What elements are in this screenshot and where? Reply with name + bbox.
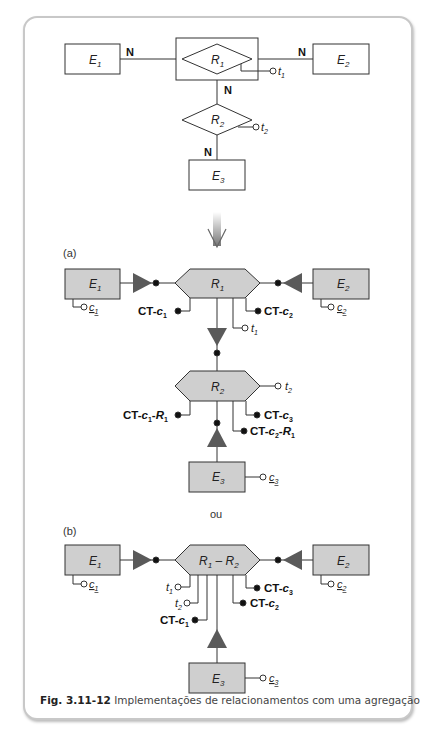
svg-text:CT-c1-R1: CT-c1-R1 [123, 409, 168, 423]
svg-text:t1: t1 [278, 65, 285, 79]
svg-text:CT-c2: CT-c2 [264, 305, 293, 319]
svg-text:N: N [126, 46, 134, 58]
svg-text:t2: t2 [175, 597, 182, 611]
svg-text:t2: t2 [261, 121, 268, 135]
caption-text: Implementações de relacionamentos com um… [114, 694, 420, 706]
caption-label: Fig. 3.11-12 [40, 694, 111, 706]
option-b-label: (b) [63, 525, 76, 537]
svg-text:CT-c3: CT-c3 [264, 409, 293, 423]
svg-text:c1: c1 [89, 301, 99, 315]
svg-text:R1 – R2: R1 – R2 [199, 554, 239, 570]
svg-text:N: N [224, 84, 232, 96]
svg-text:c3: c3 [269, 471, 279, 485]
svg-text:CT-c1: CT-c1 [138, 305, 167, 319]
svg-text:CT-c2-R1: CT-c2-R1 [250, 425, 295, 439]
er-diagram: E1 E2 R1 R2 E3 t1 t2 N N N N (a) [0, 0, 429, 735]
svg-text:c2: c2 [337, 301, 347, 315]
svg-text:CT-c3: CT-c3 [264, 582, 293, 596]
svg-text:c3: c3 [269, 672, 279, 686]
svg-text:t1: t1 [251, 322, 258, 336]
svg-text:t2: t2 [285, 380, 292, 394]
svg-text:N: N [204, 146, 212, 158]
svg-text:c1: c1 [89, 578, 99, 592]
option-a-label: (a) [63, 247, 76, 259]
svg-text:N: N [298, 46, 306, 58]
down-arrow [208, 212, 226, 247]
svg-text:c2: c2 [337, 578, 347, 592]
separator-ou: ou [210, 508, 222, 520]
svg-text:t1: t1 [166, 581, 173, 595]
figure-caption: Fig. 3.11-12 Implementações de relaciona… [40, 694, 420, 706]
svg-text:CT-c2: CT-c2 [250, 597, 279, 611]
svg-text:CT-c1: CT-c1 [160, 614, 189, 628]
